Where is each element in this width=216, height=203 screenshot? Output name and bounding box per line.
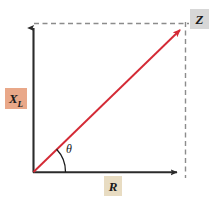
impedance-triangle-figure: XL R Z θ: [0, 0, 216, 203]
impedance-vector-z: [34, 30, 181, 172]
label-xl-symbol: X: [9, 91, 18, 106]
label-xl-subscript: L: [18, 99, 24, 109]
label-z: Z: [190, 9, 209, 29]
label-r: R: [104, 176, 122, 196]
diagram-canvas: [0, 0, 216, 203]
theta-angle-arc: [57, 149, 66, 172]
label-xl: XL: [5, 88, 27, 109]
label-theta: θ: [66, 143, 72, 155]
